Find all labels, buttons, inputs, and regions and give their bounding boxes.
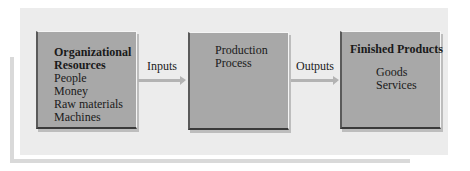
inputs-label: Inputs: [147, 59, 177, 74]
panel-shadow-bottom: [10, 159, 410, 163]
panel-shadow-left: [10, 57, 14, 163]
product-item: Services: [376, 79, 417, 92]
resources-box: Organizational Resources People Money Ra…: [36, 31, 137, 129]
outputs-arrow: [291, 79, 337, 82]
process-line-2: Process: [215, 57, 268, 70]
inputs-arrow: [138, 79, 184, 82]
products-title: Finished Products: [350, 42, 443, 57]
outputs-label: Outputs: [296, 59, 334, 74]
resource-item: Machines: [54, 111, 131, 124]
products-box: Finished Products Goods Services: [340, 31, 441, 129]
process-box: Production Process: [188, 32, 289, 130]
